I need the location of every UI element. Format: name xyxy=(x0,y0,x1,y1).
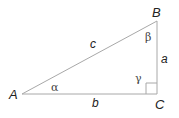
angle-gamma-label: γ xyxy=(135,72,142,85)
angle-beta-label: β xyxy=(145,31,151,44)
side-a-label: a xyxy=(161,52,168,66)
vertex-b-label: B xyxy=(152,5,161,20)
side-c-label: c xyxy=(90,37,96,51)
right-angle-marker xyxy=(146,83,157,94)
angle-alpha-label: α xyxy=(51,81,59,94)
right-triangle-diagram: A B C a b c α β γ xyxy=(0,0,179,118)
vertex-a-label: A xyxy=(8,87,18,102)
side-b-label: b xyxy=(92,96,99,110)
vertex-c-label: C xyxy=(155,97,165,112)
